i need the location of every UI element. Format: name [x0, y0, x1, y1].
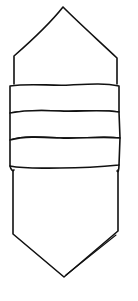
- band-3-right-tab: [117, 165, 119, 172]
- band-3: [10, 137, 120, 168]
- band-1: [10, 84, 119, 113]
- lower-body-outline: [13, 170, 118, 277]
- band-2: [10, 110, 120, 140]
- crystal-drawing: [0, 0, 138, 301]
- figure-canvas: [0, 0, 138, 301]
- upper-body-outline: [14, 7, 117, 84]
